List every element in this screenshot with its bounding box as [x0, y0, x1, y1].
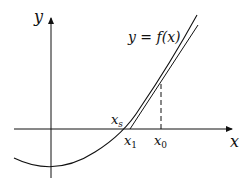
x1-label: x1	[124, 133, 137, 150]
newton-method-diagram: y x y = f(x) xs x1 x0	[0, 0, 251, 186]
curve-label: y = f(x)	[127, 29, 181, 45]
y-axis-label: y	[33, 7, 44, 26]
root-label: xs	[111, 112, 123, 129]
x-axis-label: x	[230, 132, 239, 151]
x0-label: x0	[154, 133, 167, 150]
